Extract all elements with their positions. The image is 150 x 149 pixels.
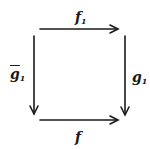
- arrow-right: [121, 36, 129, 115]
- arrow-bottom: [40, 116, 118, 124]
- label-left: g1: [10, 67, 25, 82]
- label-top: f1: [75, 10, 87, 25]
- label-right: g1: [132, 70, 147, 85]
- arrow-left: [30, 36, 38, 114]
- arrow-top: [40, 25, 118, 33]
- label-bottom: f: [75, 130, 81, 144]
